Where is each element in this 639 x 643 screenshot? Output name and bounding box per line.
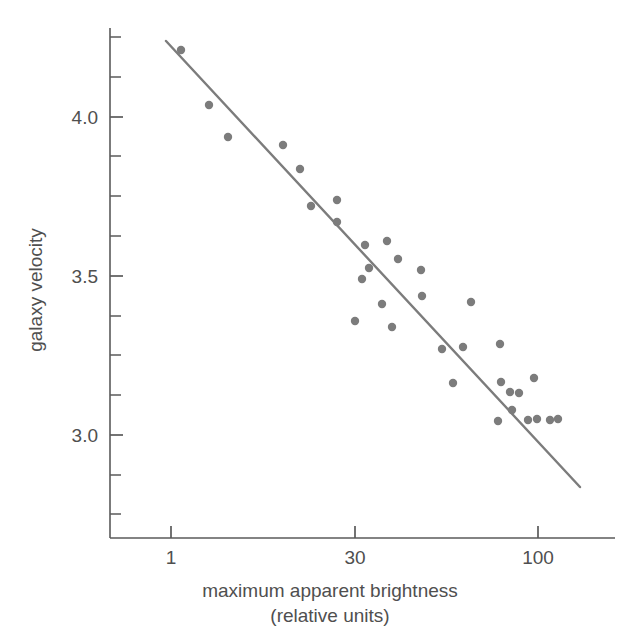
data-point (508, 406, 516, 414)
data-point (494, 417, 502, 425)
data-point (496, 340, 504, 348)
scatter-plot-figure: 4.03.53.0 130100 galaxy velocity maximum… (0, 0, 639, 643)
data-point (365, 264, 373, 272)
data-point (530, 374, 538, 382)
data-point (205, 101, 213, 109)
data-point (279, 141, 287, 149)
data-point (177, 46, 185, 54)
x-tick-label-100: 100 (522, 547, 554, 568)
x-tick-label-30: 30 (344, 547, 365, 568)
y-axis-tick-labels: 4.03.53.0 (72, 107, 98, 446)
data-point (497, 378, 505, 386)
data-point (388, 323, 396, 331)
data-point (449, 379, 457, 387)
x-axis-tick-labels: 130100 (166, 547, 554, 568)
data-point (383, 237, 391, 245)
scatter-data-points (177, 46, 562, 425)
data-point (358, 275, 366, 283)
data-point (546, 416, 554, 424)
x-axis-title-units: (relative units) (270, 605, 389, 626)
y-axis-title: galaxy velocity (25, 228, 46, 352)
plot-canvas: 4.03.53.0 130100 galaxy velocity maximum… (0, 0, 639, 643)
data-point (554, 415, 562, 423)
x-tick-label-1: 1 (166, 547, 177, 568)
data-point (378, 300, 386, 308)
data-point (307, 202, 315, 210)
data-point (418, 292, 426, 300)
x-axis-title: maximum apparent brightness (202, 580, 458, 601)
data-point (351, 317, 359, 325)
data-point (515, 389, 523, 397)
y-tick-label-3.0: 3.0 (72, 425, 98, 446)
data-point (506, 388, 514, 396)
data-point (394, 255, 402, 263)
y-tick-label-4.0: 4.0 (72, 107, 98, 128)
data-point (438, 345, 446, 353)
x-axis-ticks (171, 526, 538, 538)
y-tick-label-3.5: 3.5 (72, 266, 98, 287)
data-point (467, 298, 475, 306)
data-point (296, 165, 304, 173)
y-axis-ticks (110, 37, 123, 514)
data-point (524, 416, 532, 424)
data-point (459, 343, 467, 351)
data-point (417, 266, 425, 274)
data-point (333, 196, 341, 204)
data-point (533, 415, 541, 423)
data-point (333, 218, 341, 226)
data-point (224, 133, 232, 141)
regression-fit-line (166, 41, 580, 487)
data-point (361, 241, 369, 249)
